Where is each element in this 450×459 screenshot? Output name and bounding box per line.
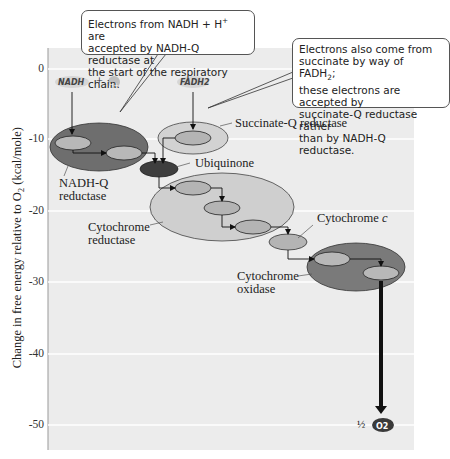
- nadh-q-reductase-label: NADH-Qreductase: [59, 177, 108, 203]
- y-tick: -40: [24, 347, 44, 359]
- half-label: ½: [357, 418, 365, 431]
- h-plus-label: H+: [109, 78, 119, 91]
- cytochrome-c-label: Cytochrome c: [317, 212, 387, 225]
- callout-nadh: Electrons from NADH + H+ are accepted by…: [81, 10, 255, 55]
- callout-text: these electrons are accepted by: [299, 84, 443, 108]
- callout-text: +: [222, 16, 228, 25]
- fadh2-label: FADH2: [180, 76, 210, 89]
- y-tick: 0: [24, 62, 44, 74]
- ubiquinone-complex: [140, 161, 178, 177]
- callout-text: Electrons also come from: [299, 43, 443, 55]
- callout-text: are: [88, 30, 105, 42]
- cytochrome-oxidase-label: Cytochromeoxidase: [237, 270, 299, 296]
- callout-text: than by NADH-Q reductase.: [299, 132, 443, 156]
- y-tick: -20: [24, 204, 44, 216]
- plus-sign: +: [96, 75, 103, 88]
- y-axis-label: Change in free energy relative to O2 (kc…: [10, 148, 27, 368]
- y-tick: -50: [24, 418, 44, 430]
- succinate-q-reductase-label: Succinate-Q reductase: [235, 117, 347, 130]
- cytochrome-reductase-label: Cytochromereductase: [88, 221, 150, 247]
- ubiquinone-label: Ubiquinone: [195, 157, 254, 170]
- y-tick: -10: [24, 132, 44, 144]
- y-tick: -30: [24, 275, 44, 287]
- callout-fadh2: Electrons also come from succinate by wa…: [292, 38, 450, 108]
- callout-text: ;: [332, 67, 336, 79]
- callout-text: Electrons from NADH + H: [88, 18, 222, 30]
- nadh-label: NADH: [58, 76, 84, 89]
- o2-label: O2: [376, 420, 388, 433]
- callout-text: succinate by way of FADH: [299, 55, 404, 79]
- cytochrome-c-complex: [269, 234, 307, 250]
- callout-text: accepted by NADH-Q reductase at: [88, 42, 248, 66]
